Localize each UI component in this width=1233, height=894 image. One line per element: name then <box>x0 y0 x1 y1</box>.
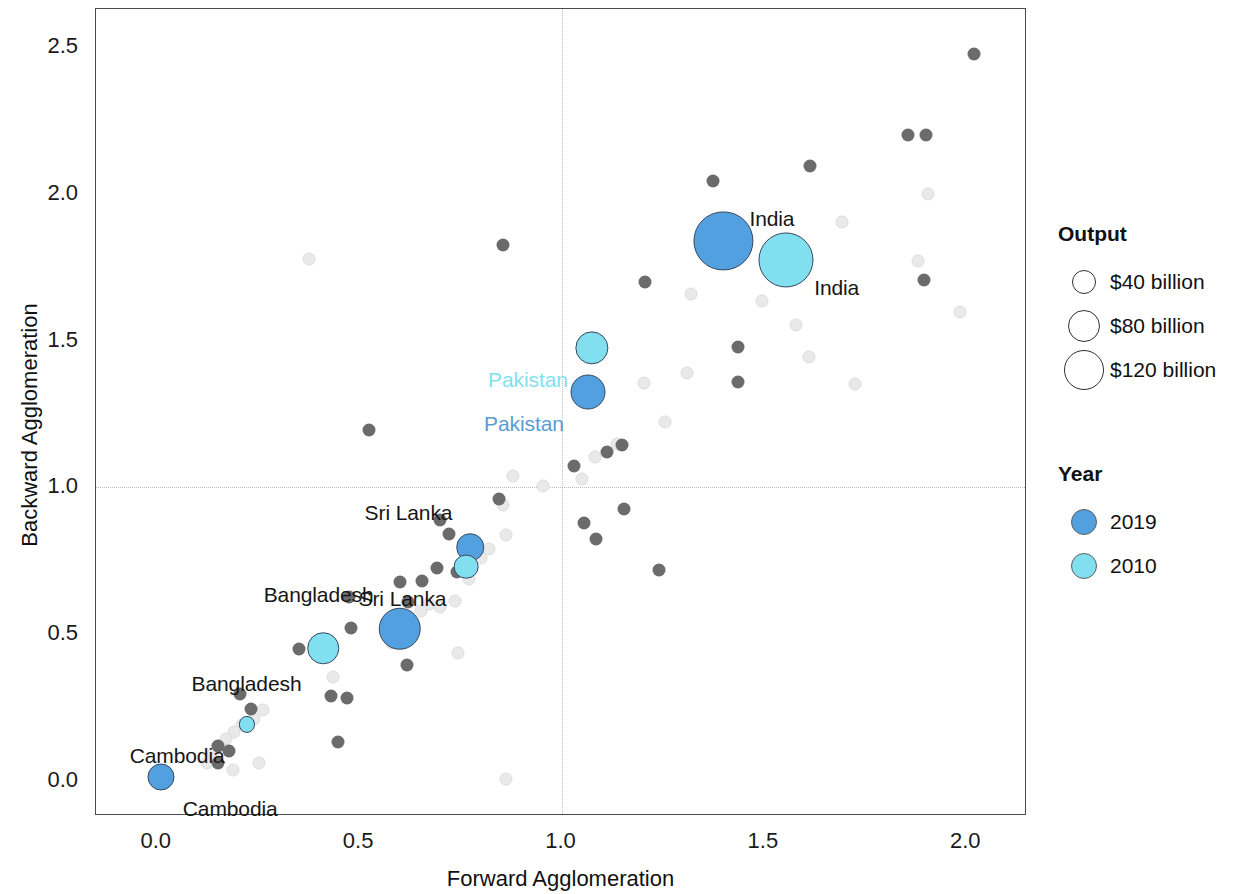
background-point-2019 <box>618 503 631 516</box>
background-point-2019 <box>492 493 505 506</box>
background-point-2010 <box>685 287 698 300</box>
background-point-2010 <box>452 647 465 660</box>
legend-output-item[interactable]: $120 billion <box>1058 348 1233 392</box>
background-point-2019 <box>600 446 613 459</box>
background-point-2010 <box>954 305 967 318</box>
highlighted-point-bangladesh-2010 <box>308 632 339 663</box>
legend-year-item-2019[interactable]: 2019 <box>1058 500 1233 544</box>
background-point-2019 <box>332 735 345 748</box>
highlighted-point-india-2019 <box>694 211 753 270</box>
highlighted-point-india-2010 <box>759 232 814 287</box>
point-label-cambodia-2019: Cambodia <box>183 797 278 821</box>
background-point-2010 <box>803 351 816 364</box>
point-label-pakistan-2019: Pakistan <box>484 412 564 436</box>
x-axis-title: Forward Agglomeration <box>95 866 1026 892</box>
legend-year-title: Year <box>1058 462 1233 486</box>
highlighted-point-cambodia-2010 <box>238 716 254 732</box>
point-label-sri-lanka-2019: Sri Lanka <box>365 501 453 525</box>
point-label-pakistan-2010: Pakistan <box>488 368 568 392</box>
background-point-2010 <box>790 319 803 332</box>
y-tick-label: 2.0 <box>47 180 78 206</box>
background-point-2019 <box>567 460 580 473</box>
background-point-2010 <box>537 479 550 492</box>
legend-output-item[interactable]: $40 billion <box>1058 260 1233 304</box>
legend-size-circle-icon <box>1058 350 1110 390</box>
legend-year: Year 20192010 <box>1058 462 1233 588</box>
background-point-2019 <box>400 658 413 671</box>
background-point-2019 <box>804 159 817 172</box>
background-point-2010 <box>302 253 315 266</box>
x-tick-label: 0.5 <box>343 828 374 854</box>
x-tick-label: 0.0 <box>140 828 171 854</box>
background-point-2010 <box>499 773 512 786</box>
legend-output-title: Output <box>1058 222 1233 246</box>
y-tick-label: 1.5 <box>47 327 78 353</box>
background-point-2019 <box>340 692 353 705</box>
background-point-2019 <box>639 275 652 288</box>
background-point-2010 <box>921 187 934 200</box>
x-tick-label: 1.5 <box>748 828 779 854</box>
background-point-2010 <box>499 528 512 541</box>
legend-size-circle-icon <box>1058 310 1110 342</box>
legend-output: Output $40 billion$80 billion$120 billio… <box>1058 222 1233 392</box>
background-point-2010 <box>658 416 671 429</box>
plot-area: IndiaIndiaPakistanPakistanSri LankaSri L… <box>95 8 1026 815</box>
background-point-2019 <box>968 47 981 60</box>
background-point-2019 <box>293 643 306 656</box>
highlighted-point-pakistan-2019 <box>570 374 605 409</box>
point-label-bangladesh-2010: Bangladesh <box>192 672 302 696</box>
background-point-2010 <box>680 366 693 379</box>
y-tick-label: 1.0 <box>47 473 78 499</box>
highlighted-point-sri-lanka-2010 <box>454 554 479 579</box>
y-tick-label: 0.0 <box>47 767 78 793</box>
background-point-2019 <box>345 621 358 634</box>
background-point-2010 <box>575 473 588 486</box>
point-label-bangladesh-2019: Bangladesh <box>264 583 374 607</box>
background-point-2010 <box>252 756 265 769</box>
background-point-2010 <box>911 255 924 268</box>
y-tick-label: 0.5 <box>47 620 78 646</box>
scatter-chart-figure: IndiaIndiaPakistanPakistanSri LankaSri L… <box>0 0 1233 894</box>
legend-size-circle-icon <box>1058 270 1110 294</box>
background-point-2019 <box>652 564 665 577</box>
background-point-2010 <box>449 595 462 608</box>
point-label-india-2019: India <box>749 207 794 231</box>
background-point-2010 <box>848 378 861 391</box>
y-axis-title: Backward Agglomeration <box>17 165 43 685</box>
legend-output-label: $120 billion <box>1110 358 1216 382</box>
highlighted-point-bangladesh-2019 <box>378 608 421 651</box>
background-point-2019 <box>707 174 720 187</box>
background-point-2010 <box>638 377 651 390</box>
y-tick-label: 2.5 <box>47 33 78 59</box>
background-point-2019 <box>731 341 744 354</box>
background-point-2019 <box>496 239 509 252</box>
background-point-2010 <box>506 469 519 482</box>
background-point-2019 <box>442 528 455 541</box>
legend-year-label: 2010 <box>1110 554 1157 578</box>
background-point-2019 <box>616 438 629 451</box>
background-point-2010 <box>588 450 601 463</box>
point-label-india-2010: India <box>814 276 859 300</box>
background-point-2019 <box>363 423 376 436</box>
x-tick-label: 2.0 <box>950 828 981 854</box>
legend-output-label: $80 billion <box>1110 314 1205 338</box>
background-point-2019 <box>901 129 914 142</box>
background-point-2010 <box>326 671 339 684</box>
background-point-2019 <box>324 690 337 703</box>
background-point-2019 <box>917 274 930 287</box>
background-point-2019 <box>731 375 744 388</box>
legend-year-circle-icon <box>1058 509 1110 535</box>
legend-output-label: $40 billion <box>1110 270 1205 294</box>
highlighted-point-pakistan-2010 <box>575 331 608 364</box>
background-point-2010 <box>226 763 239 776</box>
background-point-2010 <box>836 215 849 228</box>
background-point-2019 <box>430 562 443 575</box>
reference-line-horizontal <box>96 487 1025 488</box>
background-point-2010 <box>755 294 768 307</box>
legend-year-circle-icon <box>1058 553 1110 579</box>
legend-year-item-2010[interactable]: 2010 <box>1058 544 1233 588</box>
background-point-2019 <box>244 703 257 716</box>
background-point-2019 <box>589 532 602 545</box>
x-tick-label: 1.0 <box>545 828 576 854</box>
legend-output-item[interactable]: $80 billion <box>1058 304 1233 348</box>
